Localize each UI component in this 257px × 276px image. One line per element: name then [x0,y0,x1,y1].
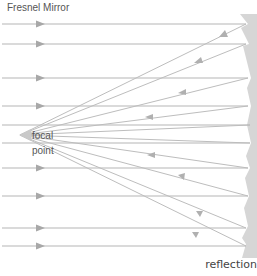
focal-point-marker [19,129,31,141]
focal-label-line1: focal [32,128,54,143]
reflected-rays [20,24,250,246]
diagram-caption: reflection [205,258,257,271]
reflected-arrow-icons [145,30,228,238]
fresnel-mirror [240,14,257,258]
focal-label-line2: point [32,143,54,158]
focal-point-label: focal point [32,128,54,158]
